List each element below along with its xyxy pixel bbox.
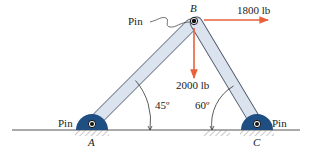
joint-a-label: A — [87, 136, 95, 148]
force-2000-label: 2000 lb — [176, 79, 210, 91]
angle-60-label: 60º — [195, 99, 210, 111]
angle-arc-60 — [212, 86, 234, 130]
angle-45-label: 45º — [155, 99, 170, 111]
ground-hatch-mid — [204, 130, 230, 136]
angle-arc-45 — [136, 81, 151, 131]
pin-label-left: Pin — [58, 117, 73, 129]
pin-label-right: Pin — [272, 117, 287, 129]
joint-b-label: B — [190, 2, 197, 14]
force-1800-label: 1800 lb — [237, 4, 271, 16]
member-ab — [85, 17, 200, 132]
joint-c-label: C — [253, 136, 261, 148]
pin-label-top: Pin — [128, 15, 143, 27]
member-bc — [188, 15, 264, 131]
frame-diagram: B A C Pin Pin Pin 1800 lb 2000 lb 45º 60… — [0, 0, 312, 155]
